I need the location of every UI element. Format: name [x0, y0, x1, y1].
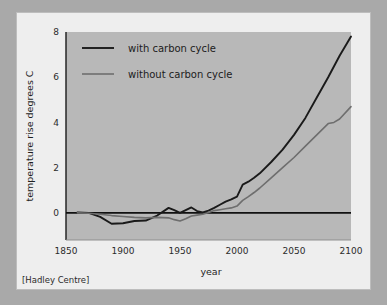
y-axis-tick-labels: 02468 [53, 27, 59, 218]
source-attribution: [Hadley Centre] [22, 275, 89, 285]
y-tick-label: 0 [53, 208, 59, 218]
figure-card: 02468 185019001950200020502100 with carb… [16, 12, 371, 290]
x-tick-label: 1900 [112, 246, 135, 256]
y-axis-title: temperature rise degrees C [24, 70, 35, 201]
x-tick-label: 2100 [340, 246, 363, 256]
x-axis-title: year [200, 266, 221, 277]
x-tick-label: 2050 [283, 246, 306, 256]
x-tick-label: 1850 [55, 246, 78, 256]
y-tick-label: 6 [53, 72, 59, 82]
x-tick-label: 2000 [226, 246, 249, 256]
y-tick-label: 8 [53, 27, 59, 37]
figure-root: 02468 185019001950200020502100 with carb… [0, 0, 387, 305]
y-tick-label: 4 [53, 118, 59, 128]
x-axis-tick-labels: 185019001950200020502100 [55, 246, 363, 256]
temperature-rise-line-chart: 02468 185019001950200020502100 with carb… [16, 12, 371, 290]
y-tick-label: 2 [53, 163, 59, 173]
plot-area-background [66, 32, 351, 240]
legend-label-without-carbon-cycle: without carbon cycle [128, 69, 232, 80]
x-tick-label: 1950 [169, 246, 192, 256]
legend-label-with-carbon-cycle: with carbon cycle [128, 43, 216, 54]
